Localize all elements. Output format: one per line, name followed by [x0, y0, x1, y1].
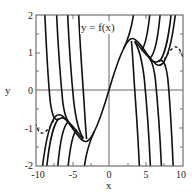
y-tick-label: 0 — [28, 85, 33, 96]
y-tick-label: 1 — [28, 47, 33, 58]
curve-upper-4 — [124, 11, 134, 49]
curve-annotation: y = f(x) — [81, 21, 115, 34]
y-tick-label: 2 — [28, 10, 33, 21]
curve-family-3-mirror — [135, 42, 151, 169]
x-tick-labels: -10 -5 0 5 10 — [31, 169, 186, 180]
curve-lower-3 — [68, 130, 77, 170]
y-tick-labels: 2 1 0 -1 -2 — [25, 10, 33, 171]
chart: y x 2 1 0 -1 -2 -10 -5 0 5 10 — [0, 0, 192, 196]
x-tick-label: -5 — [69, 169, 77, 180]
x-tick-label: 5 — [144, 169, 149, 180]
curve-upper-2 — [150, 11, 160, 58]
curve-lower-1 — [47, 118, 59, 169]
x-tick-label: 10 — [176, 169, 186, 180]
curve-lower-4 — [84, 131, 94, 169]
x-tick-label: -10 — [31, 169, 44, 180]
y-tick-label: -1 — [25, 123, 33, 134]
x-tick-label: 0 — [107, 169, 112, 180]
curve-family-4-mirror — [131, 41, 139, 169]
curve-lower-2 — [58, 122, 68, 169]
y-axis-label: y — [5, 84, 11, 96]
curve-upper-1 — [159, 11, 171, 62]
x-axis-label: x — [106, 179, 112, 191]
